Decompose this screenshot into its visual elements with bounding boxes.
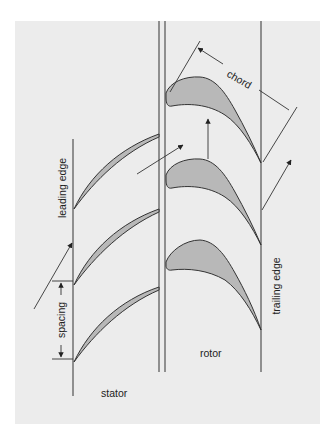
rotor-label: rotor [200,347,222,359]
stator-label: stator [101,387,128,399]
turbine-cascade-diagram: chord spacing leading edge trailing edge… [0,0,334,442]
spacing-label: spacing [55,302,67,338]
leading-edge-label: leading edge [56,158,68,218]
diagram-panel [15,21,320,424]
trailing-edge-label: trailing edge [270,257,282,314]
